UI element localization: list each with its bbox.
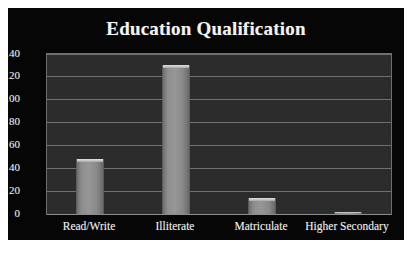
y-axis-tick-label: 40 (8, 162, 20, 173)
y-axis-tick-label: 0 (8, 208, 20, 219)
bar-highlight (163, 65, 189, 68)
bar (248, 198, 276, 214)
gridline (47, 99, 391, 100)
bar (162, 65, 190, 214)
y-axis-tick-label: 120 (8, 70, 20, 81)
y-axis-tick-label: 80 (8, 116, 20, 127)
y-axis-tick-label: 100 (8, 93, 20, 104)
chart-panel: Education Qualification 0204060801001201… (8, 8, 404, 240)
chart-title: Education Qualification (8, 18, 404, 40)
gridline (47, 122, 391, 123)
bar-highlight (249, 198, 275, 201)
chart-figure: Education Qualification 0204060801001201… (0, 0, 412, 254)
bar-highlight (335, 212, 361, 213)
x-axis-tick-label: Matriculate (218, 220, 304, 232)
plot-area (46, 53, 392, 215)
gridline (47, 54, 391, 55)
y-axis-tick-label: 20 (8, 185, 20, 196)
bar-highlight (77, 159, 103, 162)
bar (334, 212, 362, 214)
x-axis-tick-label: Illiterate (132, 220, 218, 232)
x-axis-tick-label: Higher Secondary (304, 220, 390, 232)
gridline (47, 76, 391, 77)
bar (76, 159, 104, 214)
cut-off-caption (2, 246, 302, 253)
gridline (47, 145, 391, 146)
y-axis-tick-label: 60 (8, 139, 20, 150)
x-axis-tick-label: Read/Write (46, 220, 132, 232)
y-axis-tick-label: 140 (8, 48, 20, 59)
